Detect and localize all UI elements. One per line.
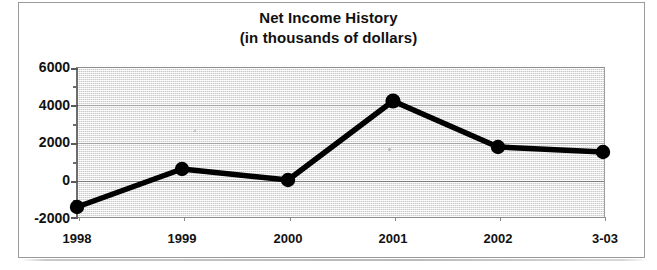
- x-axis-label-3-03: 3-03: [565, 232, 645, 246]
- x-tick-1998: [79, 217, 80, 221]
- y-tick-5000: [73, 86, 78, 88]
- y-tick-1000: [73, 162, 78, 164]
- x-axis-label-2002: 2002: [458, 232, 538, 246]
- y-tick-0: [71, 181, 78, 183]
- y-tick-3000: [73, 124, 78, 126]
- gridline-4000: [78, 105, 604, 106]
- chart-figure: Net Income History (in thousands of doll…: [0, 0, 657, 270]
- x-tick-2000: [290, 217, 291, 221]
- x-axis-label-2000: 2000: [248, 232, 328, 246]
- x-axis-label-2001: 2001: [353, 232, 433, 246]
- y-axis-label-2000: 2000: [14, 135, 70, 149]
- y-axis-label-6000: 6000: [14, 60, 70, 74]
- x-tick-2002: [500, 217, 501, 221]
- y-axis-label-4000: 4000: [14, 98, 70, 112]
- scan-speck: [388, 148, 391, 151]
- x-tick-3-03: [605, 217, 606, 221]
- y-tick-2000: [71, 143, 78, 145]
- y-tick-4000: [71, 105, 78, 107]
- plot-area: [76, 67, 605, 218]
- gridline-2000: [78, 143, 604, 144]
- frame-shadow: [21, 259, 648, 261]
- x-axis-label-1999: 1999: [142, 232, 222, 246]
- x-tick-1999: [184, 217, 185, 221]
- scan-speck: [194, 130, 196, 132]
- y-tick--1000: [73, 200, 78, 202]
- y-axis-label-0: 0: [14, 173, 70, 187]
- x-axis-label-1998: 1998: [37, 232, 117, 246]
- gridline-zero: [78, 181, 604, 182]
- x-tick-2001: [395, 217, 396, 221]
- y-tick--2000: [71, 217, 78, 219]
- y-tick-6000: [71, 68, 78, 70]
- chart-subtitle: (in thousands of dollars): [0, 28, 657, 48]
- chart-title: Net Income History: [0, 8, 657, 28]
- y-axis-label--2000: -2000: [14, 211, 70, 225]
